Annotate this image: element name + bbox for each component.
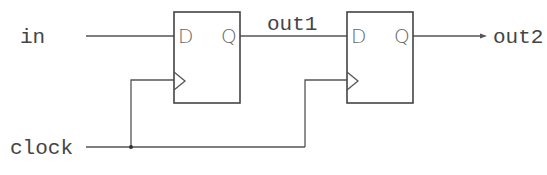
flipflop-2-d-pin: D <box>351 24 366 48</box>
arrow-head-icon <box>480 34 487 39</box>
flipflop-2-q-pin: Q <box>394 24 410 48</box>
junction-dot-icon <box>129 145 133 149</box>
flipflop-1-q-pin: Q <box>221 24 237 48</box>
label-out1: out1 <box>267 13 317 36</box>
label-out2: out2 <box>493 26 543 49</box>
label-clock: clock <box>10 137 73 160</box>
wire-clock-ff2 <box>305 80 347 147</box>
flipflop-1-d-pin: D <box>178 24 193 48</box>
circuit-diagram: in clock out1 out2 D Q D Q <box>0 0 547 175</box>
flipflop-2: D Q <box>347 12 413 103</box>
label-in: in <box>20 26 45 49</box>
wire-clock-ff1 <box>131 80 174 147</box>
flipflop-1: D Q <box>174 12 240 103</box>
